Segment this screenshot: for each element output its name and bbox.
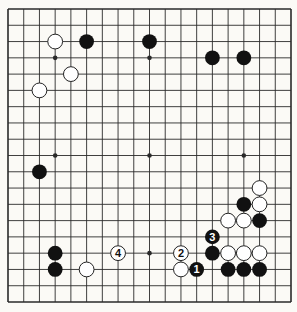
star-point bbox=[53, 56, 58, 61]
white-stone bbox=[221, 213, 236, 228]
black-stone bbox=[48, 262, 63, 277]
star-point bbox=[147, 153, 152, 158]
black-stone bbox=[79, 34, 94, 49]
black-stone bbox=[142, 34, 157, 49]
black-stone-move-3: 3 bbox=[205, 229, 220, 244]
white-stone bbox=[252, 197, 267, 212]
white-stone bbox=[63, 67, 78, 82]
black-stone bbox=[236, 50, 251, 65]
white-stone bbox=[236, 213, 251, 228]
move-number: 1 bbox=[194, 263, 200, 275]
black-stone bbox=[236, 262, 251, 277]
black-stone bbox=[205, 50, 220, 65]
white-stone bbox=[252, 246, 267, 261]
white-stone bbox=[252, 181, 267, 196]
black-stone bbox=[252, 213, 267, 228]
move-number: 2 bbox=[178, 247, 184, 259]
black-stone bbox=[205, 246, 220, 261]
black-stone-move-1: 1 bbox=[189, 262, 204, 277]
star-point bbox=[147, 56, 152, 61]
star-point bbox=[242, 153, 247, 158]
move-number: 4 bbox=[115, 247, 122, 259]
star-point bbox=[147, 251, 152, 256]
white-stone-move-2: 2 bbox=[174, 246, 189, 261]
black-stone bbox=[48, 246, 63, 261]
white-stone bbox=[79, 262, 94, 277]
white-stone bbox=[236, 246, 251, 261]
white-stone bbox=[221, 246, 236, 261]
white-stone-move-4: 4 bbox=[111, 246, 126, 261]
black-stone bbox=[236, 197, 251, 212]
star-point bbox=[53, 153, 58, 158]
black-stone bbox=[221, 262, 236, 277]
go-board: 3421 bbox=[0, 0, 297, 312]
white-stone bbox=[174, 262, 189, 277]
black-stone bbox=[252, 262, 267, 277]
black-stone bbox=[32, 164, 47, 179]
white-stone bbox=[32, 83, 47, 98]
white-stone bbox=[48, 34, 63, 49]
move-number: 3 bbox=[209, 231, 215, 243]
